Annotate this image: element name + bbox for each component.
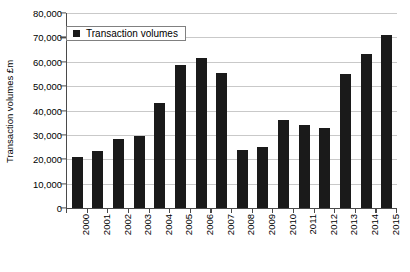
x-axis-tick-label: 2009 [266, 214, 277, 254]
x-axis-tick-label: 2002 [122, 214, 133, 254]
x-axis-tick [210, 208, 211, 213]
x-axis-tick [314, 208, 315, 213]
x-axis-tick [169, 208, 170, 213]
x-axis-tick [252, 208, 253, 213]
x-axis-tick-label: 2006 [204, 214, 215, 254]
bar [278, 120, 289, 208]
x-axis-tick-label: 2013 [348, 214, 359, 254]
bar [216, 73, 227, 208]
bar [175, 65, 186, 208]
x-axis-tick [107, 208, 108, 213]
x-axis-tick-label: 2012 [328, 214, 339, 254]
x-axis-tick [190, 208, 191, 213]
x-axis-tick [231, 208, 232, 213]
bar [319, 128, 330, 208]
x-axis-tick-label: 2011 [307, 214, 318, 254]
x-axis-tick-label: 2008 [245, 214, 256, 254]
plot-area [66, 13, 397, 209]
x-axis-tick [87, 208, 88, 213]
x-axis-tick-label: 2014 [369, 214, 380, 254]
x-axis-tick [66, 208, 67, 213]
bar [340, 74, 351, 208]
bar [72, 157, 83, 208]
x-axis-tick [334, 208, 335, 213]
x-axis-tick [149, 208, 150, 213]
bar-chart: Transaction volumes £m 010,00020,00030,0… [0, 0, 410, 272]
bar [134, 136, 145, 208]
bar [381, 35, 392, 208]
bar [237, 150, 248, 209]
bar [196, 58, 207, 208]
x-axis-tick-label: 2005 [183, 214, 194, 254]
x-axis-tick-label: 2001 [101, 214, 112, 254]
x-axis-tick-label: 2000 [80, 214, 91, 254]
x-axis-tick-label: 2010 [287, 214, 298, 254]
x-axis: 2000200120022003200420052006200720082009… [66, 208, 396, 272]
bar [361, 54, 372, 208]
bar [92, 151, 103, 208]
bar [113, 139, 124, 208]
x-axis-tick [293, 208, 294, 213]
x-axis-tick [375, 208, 376, 213]
bar-series [67, 13, 397, 208]
legend: Transaction volumes [66, 26, 186, 41]
x-axis-tick-label: 2004 [163, 214, 174, 254]
x-axis-tick [272, 208, 273, 213]
x-axis-tick [355, 208, 356, 213]
x-axis-tick-label: 2007 [225, 214, 236, 254]
legend-entry-label: Transaction volumes [86, 28, 178, 39]
legend-square-icon [73, 30, 80, 37]
x-axis-tick-label: 2015 [390, 214, 401, 254]
bar [299, 125, 310, 208]
bar [257, 147, 268, 208]
bar [154, 103, 165, 208]
y-axis-title: Transaction volumes £m [0, 0, 20, 222]
y-axis-title-label: Transaction volumes £m [5, 59, 16, 162]
x-axis-tick [396, 208, 397, 213]
x-axis-tick-label: 2003 [142, 214, 153, 254]
x-axis-tick [128, 208, 129, 213]
